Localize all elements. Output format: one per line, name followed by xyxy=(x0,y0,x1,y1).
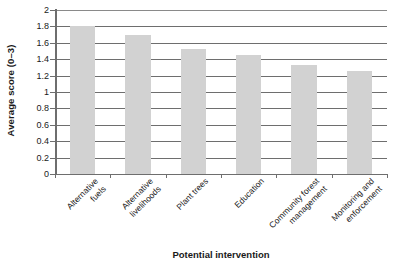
x-tick-mark xyxy=(332,174,333,178)
x-category-label: Alternativelivelihoods xyxy=(120,176,163,219)
x-axis-category-labels: AlternativefuelsAlternativelivelihoodsPl… xyxy=(55,176,387,244)
y-tick-mark xyxy=(50,125,55,126)
y-tick-mark xyxy=(50,141,55,142)
gridline xyxy=(55,59,387,60)
gridline xyxy=(55,10,387,11)
gridline xyxy=(55,125,387,126)
x-category-label: Education xyxy=(232,176,266,210)
y-tick-mark xyxy=(50,76,55,77)
gridline xyxy=(55,26,387,27)
gridline xyxy=(55,43,387,44)
y-tick-label: 0.8 xyxy=(36,104,49,113)
x-tick-mark xyxy=(387,174,388,178)
y-tick-label: 1.6 xyxy=(36,38,49,47)
x-axis-title: Potential intervention xyxy=(55,249,387,260)
x-tick-mark xyxy=(276,174,277,178)
y-tick-label: 1.2 xyxy=(36,71,49,80)
y-axis-tick-labels: 00.20.40.60.811.21.41.61.82 xyxy=(22,10,52,174)
x-tick-mark xyxy=(166,174,167,178)
y-tick-label: 1.8 xyxy=(36,22,49,31)
gridline xyxy=(55,141,387,142)
bar xyxy=(347,71,372,174)
bar xyxy=(236,55,261,174)
y-tick-label: 0 xyxy=(44,170,49,179)
gridline xyxy=(55,92,387,93)
x-category-label: Monitoring andenforcement xyxy=(330,176,385,231)
y-tick-mark xyxy=(50,108,55,109)
y-tick-label: 1 xyxy=(44,88,49,97)
gridline xyxy=(55,158,387,159)
bar-chart: Average score (0–3) 00.20.40.60.811.21.4… xyxy=(0,0,404,273)
plot-area xyxy=(55,10,387,174)
x-category-label-line: Education xyxy=(232,176,266,210)
y-axis-line xyxy=(55,9,57,175)
bar xyxy=(291,65,316,174)
y-tick-mark xyxy=(50,43,55,44)
y-tick-label: 0.4 xyxy=(36,137,49,146)
x-tick-mark xyxy=(110,174,111,178)
x-category-label: Plant trees xyxy=(175,176,211,212)
gridline xyxy=(55,76,387,77)
bar xyxy=(125,35,150,174)
bar xyxy=(70,26,95,174)
y-tick-mark xyxy=(50,158,55,159)
y-tick-label: 1.4 xyxy=(36,55,49,64)
y-tick-label: 0.6 xyxy=(36,120,49,129)
y-tick-label: 2 xyxy=(44,6,49,15)
y-tick-mark xyxy=(50,92,55,93)
x-category-label: Community forestmanagement xyxy=(267,176,329,238)
y-axis-title-text: Average score (0–3) xyxy=(6,44,17,136)
y-tick-mark xyxy=(50,26,55,27)
bar xyxy=(181,49,206,174)
y-tick-label: 0.2 xyxy=(36,153,49,162)
x-category-label-line: Plant trees xyxy=(175,176,211,212)
x-tick-mark xyxy=(55,174,56,178)
y-tick-mark xyxy=(50,59,55,60)
y-tick-mark xyxy=(50,10,55,11)
gridline xyxy=(55,108,387,109)
y-axis-title: Average score (0–3) xyxy=(0,0,22,180)
x-tick-mark xyxy=(221,174,222,178)
x-category-label: Alternativefuels xyxy=(64,176,107,219)
